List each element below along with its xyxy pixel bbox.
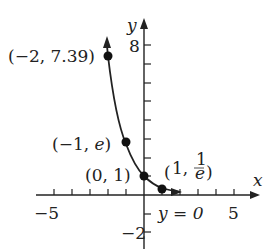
y-axis: y 8 −2 [121,15,151,249]
x-axis-arrow-icon [250,191,260,199]
y-tick-label-neg2: −2 [121,223,146,243]
point-0 [140,172,149,181]
svg-text:(: ( [164,162,171,182]
point-1 [158,185,167,194]
x-tick-label-5: 5 [228,203,239,223]
x-tick-label-neg5: −5 [34,203,59,223]
point-neg2 [104,52,113,61]
svg-text:1,: 1, [172,158,188,178]
svg-text:): ) [206,162,213,182]
label-point-neg2: (−2, 7.39) [8,46,95,66]
label-point-1: ( 1, 1 e ) [164,149,213,183]
label-point-neg1: (−1, e) [52,134,111,154]
x-axis: x −5 5 [34,170,263,223]
point-neg1 [122,138,131,147]
y-axis-label: y [126,15,137,35]
y-ticks [144,45,151,232]
exponential-decay-graph: x −5 5 y 8 −2 (−2, 7.39) [0,0,266,249]
x-axis-label: x [253,170,263,190]
y-tick-label-8: 8 [129,36,140,56]
y-axis-arrow-icon [140,18,148,29]
label-point-0: (0, 1) [85,165,131,185]
svg-text:e: e [195,163,205,183]
asymptote-label: y = 0 [157,203,204,223]
